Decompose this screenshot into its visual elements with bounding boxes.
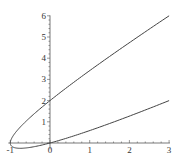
x-tick-label: 1 [87, 145, 92, 155]
y-tick-label: 6 [42, 11, 47, 21]
y-tick-label: 1 [42, 117, 47, 127]
y-tick-label: 5 [42, 32, 47, 42]
x-tick-label: 0 [48, 145, 53, 155]
chart-plot: -10123123456 [0, 0, 178, 163]
tick-marks [10, 16, 169, 143]
curve-line [10, 16, 169, 149]
y-tick-label: 4 [42, 53, 47, 63]
x-tick-label: 2 [127, 145, 132, 155]
x-tick-label: 3 [167, 145, 172, 155]
y-tick-label: 3 [42, 74, 47, 84]
tick-labels: -10123123456 [7, 11, 172, 155]
axes [8, 15, 170, 149]
